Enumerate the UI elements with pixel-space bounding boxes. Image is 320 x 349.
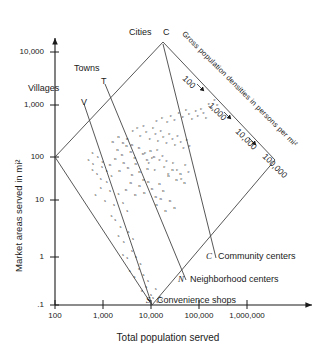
scatter-point: n (130, 180, 133, 185)
x-tick-label: 100,000 (185, 312, 214, 320)
scatter-point: c (156, 147, 159, 152)
scatter-point: s (141, 288, 143, 293)
scatter-point: s (100, 185, 102, 190)
scatter-point: s (111, 173, 113, 178)
scatter-point: c (139, 133, 142, 138)
category-letter-villages: V (81, 98, 87, 107)
scatter-point: n (122, 140, 125, 145)
category-label-towns: Towns (74, 64, 100, 73)
scatter-point: c (172, 160, 175, 165)
scatter-point: s (123, 239, 125, 244)
scatter-point: c (205, 115, 208, 120)
scatter-point: c (171, 136, 174, 141)
scatter-point: n (138, 145, 141, 150)
x-tick-label: 1,000 (93, 312, 113, 320)
scatter-point: n (155, 202, 158, 207)
scatter-point: c (188, 169, 191, 174)
scatter-point: c (155, 131, 158, 136)
x-tick-label: 1,000,000 (229, 312, 265, 320)
scatter-point: n (167, 173, 170, 178)
scatter-point: n (112, 139, 115, 144)
scatter-point: c (161, 115, 164, 120)
scatter-point: s (145, 284, 147, 289)
scatter-point: c (154, 167, 157, 172)
scatter-point: n (134, 192, 137, 197)
scatter-point: n (169, 198, 172, 203)
scatter-point: n (153, 154, 156, 159)
scatter-point: c (144, 150, 147, 155)
scatter-point: s (88, 157, 90, 162)
scatter-point: c (180, 139, 183, 144)
scatter-point: s (138, 266, 140, 271)
scatter-point: s (111, 213, 113, 218)
scatter-point: n (122, 160, 125, 165)
scatter-point: s (109, 188, 111, 193)
scatter-point: n (158, 181, 161, 186)
scatter-point: c (145, 129, 148, 134)
scatter-point: n (125, 187, 128, 192)
scatter-point: n (149, 148, 152, 153)
scatter-point: n (175, 177, 178, 182)
scatter-point: c (165, 158, 168, 163)
scatter-point: s (91, 150, 93, 155)
scatter-point: c (162, 153, 165, 158)
scatter-point: s (122, 200, 124, 205)
scatter-point: n (117, 134, 120, 139)
scatter-point: s (95, 192, 97, 197)
legend-label-neighborhood: Neighborhood centers (190, 275, 279, 284)
scatter-point: s (96, 171, 98, 176)
scatter-point: n (114, 156, 117, 161)
scatter-point: s (132, 236, 134, 241)
scatter-point: n (162, 188, 165, 193)
legend-symbol-convenience: S (146, 296, 151, 305)
scatter-point: c (184, 162, 187, 167)
scatter-point: s (106, 179, 108, 184)
scatter-point: c (136, 125, 139, 130)
scatter-point: c (152, 125, 155, 130)
scatter-point: c (173, 117, 176, 122)
scatter-point: n (127, 165, 130, 170)
scatter-point: c (155, 118, 158, 123)
scatter-point: s (131, 248, 133, 253)
scatter-point: c (132, 128, 135, 133)
scatter-point: s (91, 167, 93, 172)
scatter-point: n (138, 183, 141, 188)
legend-label-community: Community centers (218, 252, 296, 261)
x-axis-title: Total population served (117, 333, 220, 343)
scatter-point: n (154, 194, 157, 199)
y-tick-label: .1 (2, 301, 44, 309)
scatter-point: s (122, 252, 124, 257)
category-letter-cities: C (163, 28, 170, 37)
scatter-point: s (101, 164, 103, 169)
scatter-point: n (118, 168, 121, 173)
legend-label-convenience: Convenience shops (157, 296, 236, 305)
category-label-cities: Cities (129, 28, 152, 37)
scatter-point: s (113, 202, 115, 207)
towns-neighborhood-line (105, 84, 186, 280)
scatter-point: s (126, 255, 128, 260)
scatter-point: s (128, 229, 130, 234)
category-label-villages: Villages (28, 84, 59, 93)
scatter-point: c (160, 128, 163, 133)
scatter-point: s (129, 268, 131, 273)
scatter-point: c (163, 164, 166, 169)
scatter-point: c (183, 145, 186, 150)
scatter-point: n (160, 196, 163, 201)
scatter-point: c (166, 119, 169, 124)
scatter-point: n (109, 162, 112, 167)
scatter-point: c (157, 138, 160, 143)
scatter-point: s (135, 254, 137, 259)
scatter-point: n (131, 142, 134, 147)
scatter-point: c (174, 142, 177, 147)
scatter-point: s (126, 208, 128, 213)
scatter-point: n (121, 152, 124, 157)
scatter-point: s (104, 198, 106, 203)
scatter-point: n (116, 147, 119, 152)
density-envelope-diamond (55, 42, 275, 305)
scatter-point: n (164, 208, 167, 213)
scatter-point: s (152, 295, 154, 300)
x-tick-label: 100 (48, 312, 61, 320)
scatter-point: n (131, 172, 134, 177)
scatter-point: s (147, 278, 149, 283)
scatter-point: c (149, 136, 152, 141)
